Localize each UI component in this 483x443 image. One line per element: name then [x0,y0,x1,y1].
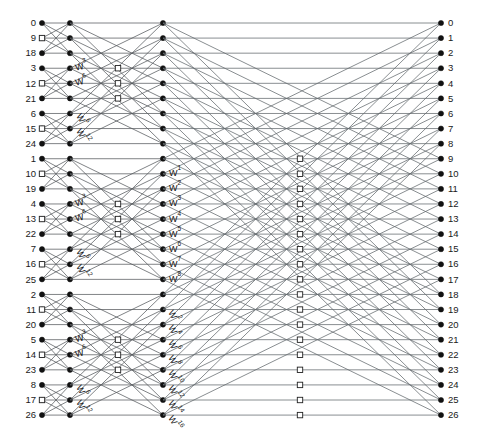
stage2-twiddle-marker [297,231,302,236]
flow-graph-canvas: 0918312216152411019413227162521120514238… [0,0,483,443]
input-index-label: 9 [31,32,36,43]
output-node [438,352,443,357]
input-index-label: 13 [25,213,36,224]
output-node [438,171,443,176]
stage2-twiddle-label-rotated: W14 [166,396,187,417]
input-node [39,51,44,56]
output-node [438,337,443,342]
input-node [39,337,44,342]
stage1-twiddle-label: W6 [73,206,89,223]
output-node [438,307,443,312]
input-index-label: 22 [25,228,36,239]
output-index-label: 21 [448,334,459,345]
output-index-label: 4 [448,78,453,89]
stage2-twiddle-label: W4 [169,209,182,224]
output-node [438,232,443,237]
output-node [438,126,443,131]
input-node [39,277,44,282]
stage2-twiddle-marker [297,292,302,297]
stage1-twiddle-label: W12 [74,124,95,145]
output-index-label: 5 [448,93,453,104]
input-index-label: 21 [25,93,36,104]
stage2-twiddle-label-rotated: W16 [166,411,187,432]
output-index-label: 16 [448,258,459,269]
output-index-label: 1 [448,32,453,43]
stage2-twiddle-label: W1 [169,164,182,179]
output-index-label: 12 [448,198,459,209]
stage1-center-marker [39,35,44,40]
output-index-label: 11 [448,183,458,194]
output-index-label: 23 [448,364,459,375]
stage1-center-marker [39,307,44,312]
input-index-label: 24 [25,138,36,149]
input-index-label: 14 [25,349,36,360]
stage2-twiddle-marker [297,337,302,342]
stage2-twiddle-marker [297,186,302,191]
input-node [39,247,44,252]
stage1-center-marker [39,397,44,402]
output-node [438,96,443,101]
output-index-label: 15 [448,243,459,254]
stage2-twiddle-label: W3 [169,194,182,209]
stage1-twiddle-label: W6 [73,342,89,359]
input-node [39,232,44,237]
output-index-label: 22 [448,349,459,360]
output-node [438,35,443,40]
output-index-label: 14 [448,228,459,239]
stage1-center-marker [39,262,44,267]
stage2-twiddle-label: W7 [169,254,182,269]
stage1-twiddle-marker [115,216,120,221]
output-node [438,262,443,267]
input-index-label: 23 [25,364,36,375]
output-node [438,292,443,297]
stage1-center-marker [39,81,44,86]
input-index-label: 5 [31,334,36,345]
output-node [438,51,443,56]
input-node [39,111,44,116]
input-node [39,141,44,146]
output-index-label: 10 [448,168,459,179]
output-index-label: 13 [448,213,459,224]
stage1-twiddle-marker [115,352,120,357]
input-index-label: 15 [25,123,36,134]
output-node [438,66,443,71]
stage1-twiddle-marker [115,96,120,101]
output-index-label: 3 [448,62,453,73]
output-node [438,322,443,327]
output-node [438,141,443,146]
output-node [438,20,443,25]
stage1-center-marker [39,171,44,176]
stage2-twiddle-marker [297,277,302,282]
input-index-label: 19 [25,183,36,194]
input-index-label: 4 [31,198,36,209]
input-node [39,367,44,372]
stage2-twiddle-marker [297,262,302,267]
output-node [438,247,443,252]
stage1-twiddle-label: W12 [74,396,95,417]
output-node [438,111,443,116]
input-node [39,156,44,161]
output-node [438,412,443,417]
output-index-label: 8 [448,138,453,149]
input-index-label: 1 [31,153,36,164]
input-index-label: 17 [25,394,36,405]
output-node [438,216,443,221]
stage2-twiddle-marker [297,156,302,161]
stage2-twiddle-label-rotated: W10 [166,366,187,387]
stage2-twiddle-label: W6 [169,239,182,254]
stage2-twiddle-marker [297,322,302,327]
output-index-label: 2 [448,47,453,58]
input-index-label: 10 [25,168,36,179]
stage1-twiddle-label: W6 [73,71,89,88]
input-node [39,66,44,71]
stage2-twiddle-marker [297,352,302,357]
stage2-twiddle-label: W8 [169,269,182,284]
input-index-label: 18 [25,47,36,58]
stage2-twiddle-marker [297,201,302,206]
output-index-label: 24 [448,379,459,390]
stage2-twiddle-label-rotated: W12 [166,381,187,402]
stage2-twiddle-marker [297,307,302,312]
input-node [39,292,44,297]
input-node [39,382,44,387]
input-index-label: 7 [31,243,36,254]
